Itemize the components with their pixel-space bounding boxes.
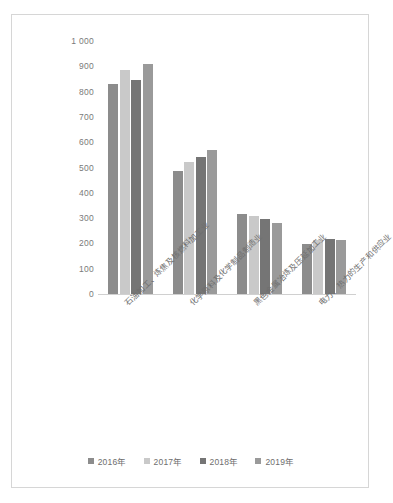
chart-legend: 2016年2017年2018年2019年 [12, 455, 370, 467]
legend-swatch-icon [144, 458, 150, 464]
bar[interactable] [108, 84, 118, 294]
legend-swatch-icon [255, 458, 261, 464]
legend-label: 2016年 [98, 455, 127, 467]
bar[interactable] [143, 64, 153, 294]
y-axis-tick-label: 100 [48, 264, 94, 274]
legend-label: 2017年 [154, 455, 183, 467]
y-axis-tick-label: 1 000 [48, 36, 94, 46]
y-axis-tick-label: 900 [48, 61, 94, 71]
y-axis-tick-label: 200 [48, 238, 94, 248]
legend-item[interactable]: 2017年 [144, 455, 183, 467]
legend-item[interactable]: 2019年 [255, 455, 294, 467]
y-axis-tick-label: 800 [48, 87, 94, 97]
y-axis-tick-label: 300 [48, 213, 94, 223]
bar[interactable] [120, 70, 130, 294]
legend-swatch-icon [88, 458, 94, 464]
plot-area: 1 0009008007006005004003002001000 石油加工、炼… [12, 15, 370, 489]
legend-item[interactable]: 2016年 [88, 455, 127, 467]
chart-figure: 1 0009008007006005004003002001000 石油加工、炼… [11, 14, 369, 488]
bar-group [98, 41, 163, 294]
y-axis-tick-label: 400 [48, 188, 94, 198]
legend-item[interactable]: 2018年 [200, 455, 239, 467]
bar[interactable] [173, 171, 183, 294]
bar[interactable] [249, 216, 259, 294]
legend-swatch-icon [200, 458, 206, 464]
y-axis-tick-label: 700 [48, 112, 94, 122]
bars-layer [98, 41, 356, 294]
legend-label: 2019年 [265, 455, 294, 467]
y-axis-tick-label: 500 [48, 163, 94, 173]
y-axis-tick-label: 600 [48, 137, 94, 147]
bar[interactable] [131, 80, 141, 294]
x-axis-category-labels: 石油加工、炼焦及核燃料加工业化学原料及化学制品制造业黑色金属冶炼及压延加工业电力… [12, 294, 370, 424]
legend-label: 2018年 [210, 455, 239, 467]
